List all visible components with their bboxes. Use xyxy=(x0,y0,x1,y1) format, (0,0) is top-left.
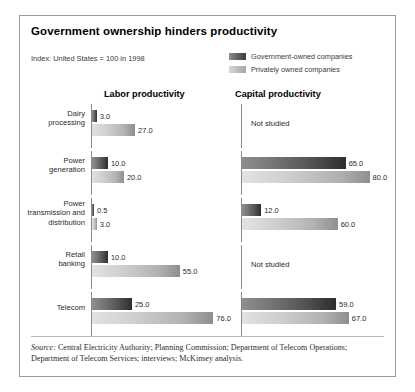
source-text: Central Electricity Authority; Planning … xyxy=(31,343,347,363)
bar-line-priv: 55.0 xyxy=(92,265,197,277)
row-label: Powergeneration xyxy=(20,156,85,175)
column-header-capital: Capital productivity xyxy=(235,89,321,99)
page-title: Government ownership hinders productivit… xyxy=(31,25,277,37)
legend-item-government: Government-owned companies xyxy=(229,51,399,62)
chart-row: Dairyprocessing3.027.0Not studied xyxy=(20,107,395,151)
bar-line-gov: 0.5 xyxy=(92,204,110,216)
bar-priv xyxy=(242,171,370,183)
legend-swatch-government-icon xyxy=(229,53,246,60)
panel-capital: 12.060.0 xyxy=(241,201,395,241)
bar-line-priv: 76.0 xyxy=(92,312,231,324)
bar-line-priv: 80.0 xyxy=(242,171,387,183)
chart-row: Retailbanking10.055.0Not studied xyxy=(20,248,395,292)
bar-line-gov: 12.0 xyxy=(242,204,355,216)
bar-value-label: 80.0 xyxy=(373,173,388,182)
bar-value-label: 67.0 xyxy=(352,314,367,323)
bar-value-label: 27.0 xyxy=(138,126,153,135)
exhibit-frame: Government ownership hinders productivit… xyxy=(19,15,396,377)
chart-row: Telecom25.076.059.067.0 xyxy=(20,295,395,339)
bar-line-priv: 20.0 xyxy=(92,171,142,183)
row-label: Telecom xyxy=(20,303,85,312)
source-divider xyxy=(31,336,384,337)
bar-line-gov: 10.0 xyxy=(92,157,142,169)
bar-gov xyxy=(92,251,108,263)
bar-group: 65.080.0 xyxy=(242,157,387,185)
bar-group: 10.020.0 xyxy=(92,157,142,185)
bar-line-priv: 3.0 xyxy=(92,218,110,230)
bar-value-label: 10.0 xyxy=(111,159,126,168)
bar-gov xyxy=(92,298,132,310)
panel-labor: 10.020.0 xyxy=(91,154,241,194)
bar-gov xyxy=(92,157,108,169)
bar-group: 10.055.0 xyxy=(92,251,197,279)
bar-value-label: 59.0 xyxy=(339,300,354,309)
panel-capital: Not studied xyxy=(241,107,395,147)
legend-item-private: Privately owned companies xyxy=(229,64,399,75)
column-header-labor: Labor productivity xyxy=(104,89,185,99)
bar-gov xyxy=(242,204,261,216)
bar-value-label: 10.0 xyxy=(111,253,126,262)
bar-value-label: 3.0 xyxy=(100,112,110,121)
panel-labor: 3.027.0 xyxy=(91,107,241,147)
row-label: Retailbanking xyxy=(20,250,85,269)
bar-value-label: 65.0 xyxy=(349,159,364,168)
panel-labor: 0.53.0 xyxy=(91,201,241,241)
bar-line-gov: 25.0 xyxy=(92,298,231,310)
legend-label-government: Government-owned companies xyxy=(251,52,352,61)
panel-labor: 10.055.0 xyxy=(91,248,241,288)
panel-capital: 59.067.0 xyxy=(241,295,395,335)
bar-line-gov: 59.0 xyxy=(242,298,366,310)
bar-line-priv: 27.0 xyxy=(92,124,153,136)
bar-priv xyxy=(242,218,338,230)
not-studied-label: Not studied xyxy=(251,260,289,269)
axis-line xyxy=(241,245,242,289)
panel-capital: Not studied xyxy=(241,248,395,288)
panel-capital: 65.080.0 xyxy=(241,154,395,194)
source-note: Source: Central Electricity Authority; P… xyxy=(31,343,387,364)
bar-group: 25.076.0 xyxy=(92,298,231,326)
bar-group: 59.067.0 xyxy=(242,298,366,326)
row-label: Dairyprocessing xyxy=(20,109,85,128)
not-studied-label: Not studied xyxy=(251,119,289,128)
bar-gov xyxy=(242,298,336,310)
bar-group: 12.060.0 xyxy=(242,204,355,232)
row-label: Powertransmission anddistribution xyxy=(20,199,85,227)
panel-labor: 25.076.0 xyxy=(91,295,241,335)
chart-plot-area: Dairyprocessing3.027.0Not studiedPowerge… xyxy=(20,107,395,342)
bar-gov xyxy=(242,157,346,169)
bar-gov xyxy=(92,204,94,216)
bar-priv xyxy=(92,218,97,230)
bar-line-gov: 65.0 xyxy=(242,157,387,169)
bar-value-label: 0.5 xyxy=(97,206,107,215)
bar-value-label: 3.0 xyxy=(100,220,110,229)
legend-swatch-private-icon xyxy=(229,66,246,73)
bar-value-label: 25.0 xyxy=(135,300,150,309)
bar-line-gov: 10.0 xyxy=(92,251,197,263)
bar-line-priv: 67.0 xyxy=(242,312,366,324)
bar-priv xyxy=(92,265,180,277)
bar-value-label: 76.0 xyxy=(216,314,231,323)
chart-legend: Government-owned companies Privately own… xyxy=(229,51,399,77)
bar-priv xyxy=(92,312,213,324)
chart-row: Powertransmission anddistribution0.53.01… xyxy=(20,201,395,245)
bar-line-gov: 3.0 xyxy=(92,110,153,122)
bar-group: 3.027.0 xyxy=(92,110,153,138)
bar-group: 0.53.0 xyxy=(92,204,110,232)
bar-value-label: 55.0 xyxy=(183,267,198,276)
bar-priv xyxy=(242,312,349,324)
bar-value-label: 20.0 xyxy=(127,173,142,182)
source-prefix: Source: xyxy=(31,343,56,352)
bar-gov xyxy=(92,110,97,122)
bar-value-label: 12.0 xyxy=(264,206,279,215)
bar-priv xyxy=(92,124,135,136)
bar-priv xyxy=(92,171,124,183)
bar-value-label: 60.0 xyxy=(341,220,356,229)
legend-label-private: Privately owned companies xyxy=(251,65,340,74)
chart-row: Powergeneration10.020.065.080.0 xyxy=(20,154,395,198)
index-note: Index: United States = 100 in 1998 xyxy=(31,54,145,63)
bar-line-priv: 60.0 xyxy=(242,218,355,230)
axis-line xyxy=(241,104,242,148)
